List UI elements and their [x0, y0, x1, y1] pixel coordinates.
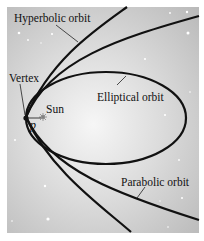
elliptical-orbit-label: Elliptical orbit — [97, 91, 165, 104]
sun-label: Sun — [46, 103, 64, 115]
vertex-leader-line — [20, 84, 25, 115]
parabolic-orbit-curve — [26, 16, 199, 220]
vertex-label: Vertex — [9, 72, 39, 84]
hyperbolic-orbit-label: Hyperbolic orbit — [14, 12, 91, 25]
stars — [11, 11, 191, 228]
parabolic-orbit-label: Parabolic orbit — [121, 176, 190, 188]
point-p-label: p — [29, 118, 36, 132]
hyperbolic-orbit-curve — [26, 7, 131, 232]
parabolic-leader-line — [137, 187, 145, 198]
hyperbolic-leader-line — [56, 25, 78, 42]
elliptical-leader-line — [117, 76, 126, 85]
orbit-diagram: Hyperbolic orbit Elliptical orbit Parabo… — [0, 0, 204, 241]
